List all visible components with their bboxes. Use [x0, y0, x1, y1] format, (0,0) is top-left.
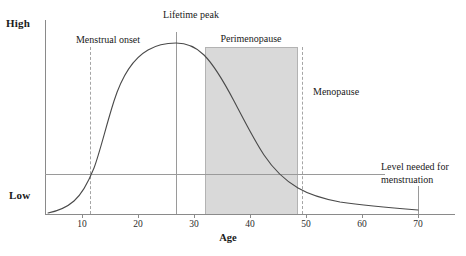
- annotation-menopause: Menopause: [313, 86, 359, 99]
- x-tick-mark: [194, 214, 195, 218]
- hormone-level-chart: High Low 10 20 30 40 50 60 70 Age Menstr…: [0, 0, 466, 256]
- x-tick-label: 50: [301, 219, 311, 229]
- menstruation-threshold-line: [45, 174, 385, 175]
- x-tick-mark: [362, 214, 363, 218]
- x-tick-label: 70: [413, 219, 423, 229]
- x-tick-mark: [138, 214, 139, 218]
- x-tick-label: 30: [189, 219, 199, 229]
- annotation-perimenopause: Perimenopause: [220, 33, 281, 46]
- y-axis-low-label: Low: [9, 189, 30, 201]
- x-axis-title: Age: [219, 232, 237, 243]
- annotation-lifetime-peak: Lifetime peak: [163, 9, 219, 22]
- x-tick-mark: [306, 214, 307, 218]
- perimenopause-band: [205, 47, 298, 215]
- age-70-marker-line: [418, 186, 419, 214]
- x-tick-label: 20: [133, 219, 143, 229]
- menopause-line: [302, 47, 303, 214]
- x-tick-mark: [82, 214, 83, 218]
- y-axis-high-label: High: [6, 17, 30, 29]
- annotation-menstrual-onset: Menstrual onset: [76, 34, 140, 47]
- y-axis: [45, 20, 46, 215]
- x-tick-mark: [418, 214, 419, 218]
- x-tick-label: 10: [77, 219, 87, 229]
- x-tick-mark: [250, 214, 251, 218]
- menstrual-onset-line: [90, 47, 91, 214]
- lifetime-peak-line: [176, 32, 177, 214]
- x-tick-label: 60: [357, 219, 367, 229]
- annotation-menstruation-threshold: Level needed for menstruation: [381, 161, 466, 186]
- x-tick-label: 40: [245, 219, 255, 229]
